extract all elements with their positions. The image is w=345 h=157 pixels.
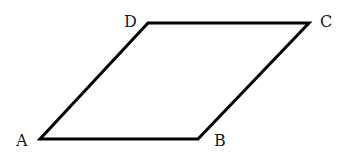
vertex-label-a: A [15, 131, 28, 150]
vertex-label-b: B [214, 131, 226, 150]
parallelogram-diagram: A B C D [0, 0, 345, 157]
vertex-label-c: C [320, 12, 332, 31]
parallelogram-abcd [40, 23, 309, 139]
vertex-label-d: D [124, 12, 137, 31]
